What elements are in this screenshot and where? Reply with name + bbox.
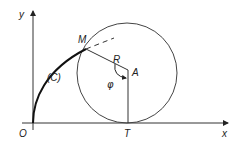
segment-ma xyxy=(86,49,128,70)
involute-diagram: y x O M A T R (C) φ xyxy=(0,0,239,143)
y-axis-label: y xyxy=(18,9,25,20)
radius-label: R xyxy=(113,54,120,65)
point-a-label: A xyxy=(131,67,139,78)
curve-c xyxy=(33,49,86,123)
point-t-label: T xyxy=(124,128,131,139)
angle-phi-label: φ xyxy=(107,79,114,90)
curve-label: (C) xyxy=(47,72,61,83)
x-axis-label: x xyxy=(221,128,228,139)
point-m-label: M xyxy=(78,34,87,45)
origin-label: O xyxy=(19,128,27,139)
rolling-circle xyxy=(77,23,177,123)
